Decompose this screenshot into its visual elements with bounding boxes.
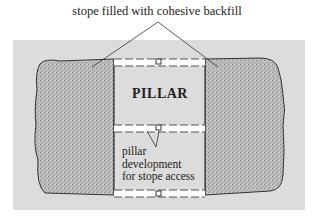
left-stope-backfill [35,59,114,195]
middle-drift [114,125,205,132]
mining-diagram: stope filled with cohesive backfill PILL… [0,0,314,217]
development-label-line-2: development [122,158,195,171]
backfill-label: stope filled with cohesive backfill [0,4,314,19]
development-label-line-1: pillar [122,145,195,158]
development-label-line-3: for stope access [122,170,195,183]
upper-drift [114,59,205,66]
right-stope-backfill [205,58,285,195]
pillar-label: PILLAR [114,86,206,102]
development-label: pillar development for stope access [122,145,195,183]
lower-drift [114,190,205,197]
diagram-canvas [0,0,314,217]
